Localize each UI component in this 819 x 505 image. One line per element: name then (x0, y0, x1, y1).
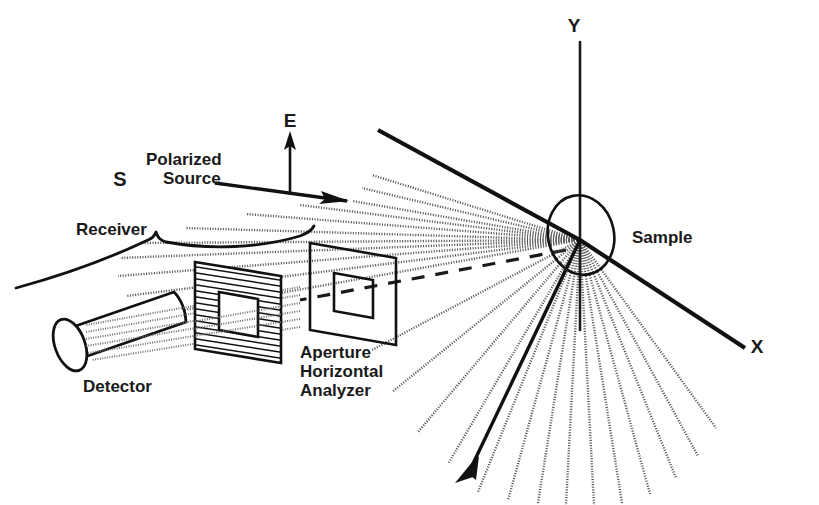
label-x-axis: X (751, 336, 764, 357)
label-sample: Sample (632, 228, 692, 247)
label-receiver: Receiver (76, 220, 147, 239)
label-source-point: S (113, 168, 126, 190)
label-aperture: Aperture (300, 343, 371, 362)
label-analyzer: Analyzer (300, 381, 371, 400)
scattering-diagram-figure: Y X E S Polarized Source Receiver Detect… (0, 0, 819, 505)
scattered-rays-lower (372, 240, 716, 505)
diagram-canvas: Y X E S Polarized Source Receiver Detect… (0, 0, 819, 505)
x-axis-line (580, 240, 745, 348)
e-field-arrow (284, 131, 296, 192)
label-y-axis: Y (568, 15, 581, 36)
aperture-frame (310, 243, 396, 345)
transmitted-beam-arrow (455, 240, 580, 484)
label-polarized-source-line2: Source (163, 169, 221, 188)
label-detector: Detector (83, 377, 152, 396)
coordinate-axes (580, 42, 745, 348)
diagram-labels: Y X E S Polarized Source Receiver Detect… (76, 15, 764, 400)
label-e-field: E (284, 110, 297, 131)
label-horizontal: Horizontal (300, 362, 383, 381)
polarized-source-arrow (215, 183, 349, 204)
label-polarized-source-line1: Polarized (146, 150, 222, 169)
